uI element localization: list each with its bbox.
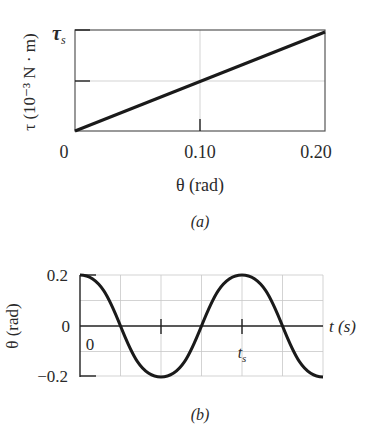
- x-tick-0-20: 0.20: [300, 142, 332, 162]
- y-axis-label-b: θ (rad): [3, 303, 22, 348]
- x-tick-0: 0: [60, 142, 69, 162]
- ticks-a: [75, 30, 200, 131]
- x-tick-0-10: 0.10: [184, 142, 216, 162]
- y-tick-0-2: 0.2: [47, 266, 68, 285]
- y-axis-label-a: τ (10⁻³ N · m): [20, 33, 39, 130]
- ts-label: ts: [238, 344, 247, 364]
- figure: τs τ (10⁻³ N · m) 0 0.10 0.20 θ (rad) (a…: [0, 0, 369, 435]
- y-tick-0: 0: [62, 317, 71, 336]
- tau-s-label: τs: [52, 22, 66, 47]
- x-axis-label-b: t (s): [329, 317, 356, 336]
- caption-b: (b): [191, 406, 210, 424]
- chart-b: 0.2 0 −0.2 0 ts t (s) θ (rad) (b): [3, 266, 356, 424]
- caption-a: (a): [191, 213, 210, 231]
- y-tick-neg-0-2: −0.2: [37, 367, 68, 386]
- chart-a: τs τ (10⁻³ N · m) 0 0.10 0.20 θ (rad) (a…: [20, 22, 332, 231]
- origin-label: 0: [86, 335, 95, 354]
- x-axis-label-a: θ (rad): [176, 175, 224, 196]
